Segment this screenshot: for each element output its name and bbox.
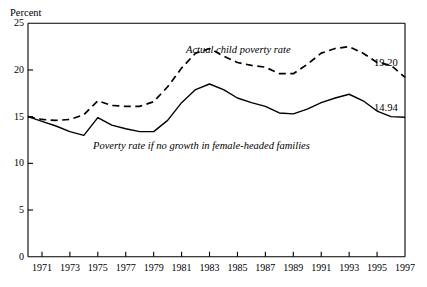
y-tick-label: 15	[0, 112, 24, 122]
x-tick-label: 1997	[385, 263, 425, 273]
y-tick-label: 25	[0, 18, 24, 28]
y-tick-label: 5	[0, 205, 24, 215]
annotation-poverty-rate-no-growth: Poverty rate if no growth in female-head…	[93, 140, 310, 151]
end-value-actual-child-poverty-rate: 19.20	[374, 57, 398, 68]
y-axis-ticks	[28, 70, 33, 210]
y-tick-label: 0	[0, 252, 24, 262]
series-line-poverty-rate-no-growth	[28, 84, 405, 135]
annotation-actual-child-poverty-rate: Actual child poverty rate	[186, 44, 291, 55]
child-poverty-rate-chart: Percent 0510152025 197119731975197719791…	[0, 0, 427, 287]
y-tick-label: 20	[0, 65, 24, 75]
end-value-poverty-rate-no-growth: 14.94	[374, 102, 398, 113]
series-line-actual-child-poverty-rate	[28, 47, 405, 121]
x-axis-ticks	[42, 252, 377, 257]
y-tick-label: 10	[0, 158, 24, 168]
